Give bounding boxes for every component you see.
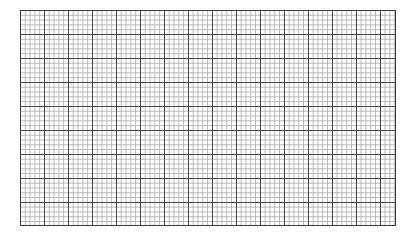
page-canvas [0, 0, 416, 241]
grid-border [20, 10, 396, 226]
graph-paper-grid [20, 10, 396, 226]
major-gridlines-layer [20, 10, 396, 226]
minor-gridlines-layer [20, 10, 396, 226]
